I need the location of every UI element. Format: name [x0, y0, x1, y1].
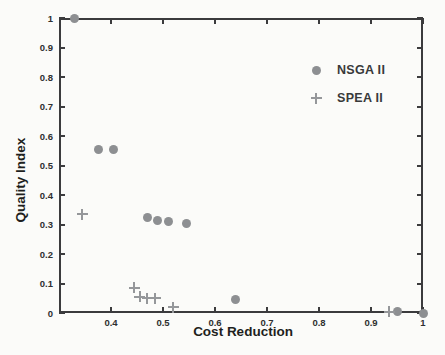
data-point-spea-ii — [384, 306, 395, 317]
scatter-plot-figure: Cost Reduction Quality Index NSGA II SPE… — [0, 0, 445, 355]
y-axis-tick-right — [417, 224, 423, 226]
x-tick-label: 0.6 — [200, 317, 230, 328]
y-axis-tick — [59, 253, 65, 255]
data-point-nsga-ii — [143, 213, 152, 222]
legend-label-spea-ii: SPEA II — [337, 91, 383, 105]
x-tick-label: 0.8 — [304, 317, 334, 328]
plus-marker-icon — [301, 93, 331, 104]
x-axis-tick — [110, 307, 112, 313]
y-axis-tick-right — [417, 135, 423, 137]
y-axis-tick-right — [417, 165, 423, 167]
x-axis-tick-top — [370, 18, 372, 24]
circle-marker-icon — [301, 66, 331, 75]
data-point-nsga-ii — [164, 217, 173, 226]
y-tick-label: 0.1 — [19, 278, 53, 289]
x-axis-tick-top — [110, 18, 112, 24]
x-axis-tick-top — [318, 18, 320, 24]
data-point-nsga-ii — [182, 219, 191, 228]
y-axis-label: Quality Index — [13, 138, 28, 223]
x-tick-label: 1 — [408, 317, 438, 328]
y-axis-tick — [59, 165, 65, 167]
x-axis-tick-top — [266, 18, 268, 24]
x-axis-tick-top — [162, 18, 164, 24]
x-tick-label: 0.5 — [148, 317, 178, 328]
y-axis-tick-right — [417, 47, 423, 49]
y-axis-tick — [59, 76, 65, 78]
y-axis-tick-right — [417, 76, 423, 78]
x-axis-tick — [214, 307, 216, 313]
y-tick-label: 0.5 — [19, 160, 53, 171]
y-tick-label: 0.4 — [19, 190, 53, 201]
data-point-spea-ii — [168, 302, 179, 313]
x-tick-label: 0.9 — [356, 317, 386, 328]
data-point-nsga-ii — [153, 216, 162, 225]
data-point-nsga-ii — [70, 14, 79, 23]
y-axis-tick-right — [417, 17, 423, 19]
data-point-spea-ii — [77, 209, 88, 220]
y-tick-label: 0 — [19, 308, 53, 319]
y-axis-tick-right — [417, 194, 423, 196]
y-tick-label: 0.8 — [19, 72, 53, 83]
data-point-nsga-ii — [109, 145, 118, 154]
y-tick-label: 1 — [19, 13, 53, 24]
legend: NSGA II SPEA II — [301, 56, 385, 112]
y-tick-label: 0.2 — [19, 249, 53, 260]
data-point-nsga-ii — [419, 309, 428, 318]
y-tick-label: 0.9 — [19, 42, 53, 53]
y-tick-label: 0.3 — [19, 219, 53, 230]
x-axis-tick — [370, 307, 372, 313]
x-axis-tick — [318, 307, 320, 313]
legend-item-nsga-ii: NSGA II — [301, 56, 385, 84]
legend-item-spea-ii: SPEA II — [301, 84, 385, 112]
y-axis-tick — [59, 47, 65, 49]
x-axis-tick-top — [214, 18, 216, 24]
legend-label-nsga-ii: NSGA II — [337, 63, 385, 77]
y-axis-tick — [59, 135, 65, 137]
y-axis-tick — [59, 17, 65, 19]
y-axis-tick — [59, 283, 65, 285]
y-tick-label: 0.6 — [19, 131, 53, 142]
y-axis-tick — [59, 194, 65, 196]
x-axis-tick — [162, 307, 164, 313]
data-point-spea-ii — [150, 293, 161, 304]
x-tick-label: 0.4 — [96, 317, 126, 328]
data-point-nsga-ii — [94, 145, 103, 154]
y-axis-tick-right — [417, 106, 423, 108]
y-axis-tick — [59, 224, 65, 226]
x-axis-tick — [266, 307, 268, 313]
x-tick-label: 0.7 — [252, 317, 282, 328]
y-axis-tick-right — [417, 253, 423, 255]
y-axis-tick — [59, 312, 65, 314]
y-tick-label: 0.7 — [19, 101, 53, 112]
y-axis-tick — [59, 106, 65, 108]
y-axis-tick-right — [417, 283, 423, 285]
